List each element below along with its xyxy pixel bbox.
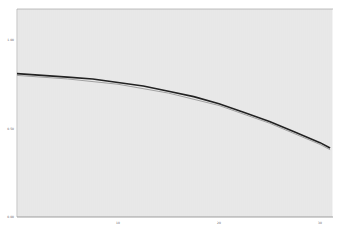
y-tick-label: 0.50 xyxy=(7,127,14,131)
x-tick-label: 30 xyxy=(318,221,322,225)
x-tick-label: 10 xyxy=(116,221,120,225)
x-tick-label: 20 xyxy=(217,221,221,225)
x-tick-labels: 102030 xyxy=(116,221,322,225)
y-tick-label: 0.00 xyxy=(7,215,14,219)
line-chart: 0.000.501.00 102030 xyxy=(0,0,346,235)
y-tick-labels: 0.000.501.00 xyxy=(7,38,14,219)
y-tick-label: 1.00 xyxy=(7,38,14,42)
